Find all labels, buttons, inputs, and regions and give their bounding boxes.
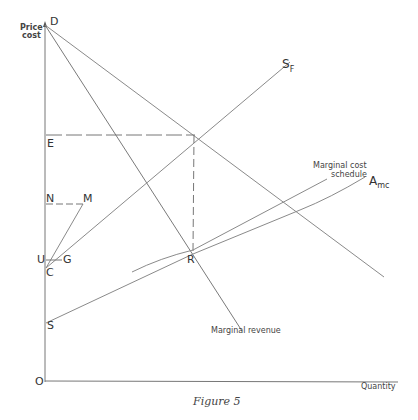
sf-main: S bbox=[282, 57, 290, 71]
amc-main: A bbox=[369, 174, 377, 188]
marginal-cost-label-line2: schedule bbox=[331, 171, 367, 179]
amc-subscript: mc bbox=[377, 181, 389, 190]
point-c-label: C bbox=[46, 267, 54, 278]
sf-subscript: F bbox=[290, 65, 295, 74]
diagram-canvas bbox=[0, 0, 418, 420]
x-axis-label: Quantity bbox=[361, 383, 396, 391]
point-u-label: U bbox=[37, 254, 45, 265]
x-axis bbox=[45, 381, 398, 382]
point-n-label: N bbox=[46, 193, 54, 204]
point-r-label: R bbox=[187, 254, 195, 265]
y-axis-label-cost: cost bbox=[22, 32, 41, 40]
marginal-revenue-label: Marginal revenue bbox=[211, 327, 281, 335]
point-g-label: G bbox=[63, 254, 72, 265]
sf-supply-curve bbox=[46, 62, 290, 268]
marginal-cost-label-line1: Marginal cost bbox=[313, 162, 367, 170]
point-m-label: M bbox=[83, 193, 93, 204]
point-s-label: S bbox=[47, 320, 54, 331]
figure-caption: Figure 5 bbox=[193, 396, 241, 407]
demand-curve bbox=[45, 25, 384, 277]
point-d-label: D bbox=[50, 16, 58, 27]
r-dashed-line bbox=[193, 135, 194, 252]
amc-curve bbox=[46, 177, 365, 323]
sf-curve-label: SF bbox=[282, 58, 294, 70]
marginal-revenue-curve bbox=[45, 25, 242, 331]
origin-label: O bbox=[35, 376, 44, 387]
amc-curve-label: Amc bbox=[369, 175, 389, 187]
point-e-label: E bbox=[47, 138, 54, 149]
marginal-cost-schedule-curve bbox=[132, 179, 327, 272]
